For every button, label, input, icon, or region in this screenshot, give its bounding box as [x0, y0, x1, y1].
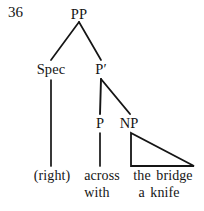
- node-pp: PP: [71, 7, 87, 22]
- edge-pbar-to-p: [100, 79, 101, 114]
- edge-pbar-to-np: [101, 79, 130, 114]
- edge-root-to-spec: [51, 22, 79, 60]
- edge-root-to-pbar: [79, 22, 101, 60]
- np-triangle: [131, 133, 194, 166]
- terminal-np-a-knife: a knife: [138, 186, 179, 200]
- node-np: NP: [120, 116, 139, 131]
- terminal-spec-right: (right): [34, 169, 70, 183]
- terminal-p-with: with: [84, 186, 109, 200]
- node-p: P: [96, 116, 104, 131]
- terminal-np-the-bridge: the bridge: [133, 169, 192, 183]
- syntax-tree-diagram: 36 PP Spec P′ P NP (right) across with t…: [0, 0, 204, 211]
- node-p-bar: P′: [95, 62, 106, 77]
- node-spec: Spec: [37, 62, 66, 77]
- terminal-p-across: across: [84, 169, 120, 183]
